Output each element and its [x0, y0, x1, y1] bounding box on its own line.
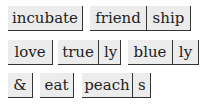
tile-segment[interactable]: true: [58, 40, 98, 64]
tile-segment[interactable]: &: [8, 73, 32, 97]
word-tile-love[interactable]: love: [8, 40, 53, 65]
tile-segment[interactable]: love: [8, 40, 52, 64]
tile-segment[interactable]: eat: [40, 73, 73, 97]
tile-segment[interactable]: ly: [98, 40, 122, 64]
word-tile-friendship[interactable]: friend ship: [90, 6, 191, 31]
tile-segment[interactable]: ship: [146, 6, 190, 30]
word-tile-incubate[interactable]: incubate: [8, 6, 83, 31]
word-tile-bluely[interactable]: blue ly: [128, 40, 199, 65]
tile-segment[interactable]: incubate: [8, 6, 82, 30]
tile-segment[interactable]: ly: [172, 40, 198, 64]
tile-segment[interactable]: blue: [128, 40, 172, 64]
tile-segment[interactable]: peach: [82, 73, 132, 97]
word-tile-ampersand[interactable]: &: [8, 73, 33, 98]
tile-segment[interactable]: s: [132, 73, 151, 97]
word-tile-peaches[interactable]: peach s: [82, 73, 151, 98]
tile-segment[interactable]: friend: [90, 6, 146, 30]
word-tile-eat[interactable]: eat: [40, 73, 74, 98]
word-tile-truly[interactable]: true ly: [58, 40, 121, 65]
